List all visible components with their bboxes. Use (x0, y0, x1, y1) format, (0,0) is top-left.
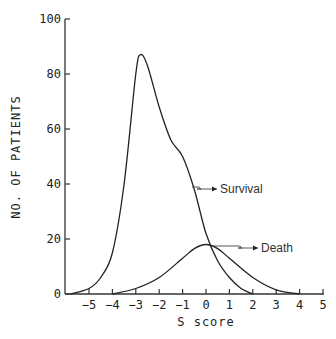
y-tick-label: 80 (47, 67, 61, 81)
arrow-icon (253, 246, 258, 251)
survival-annotation-label: Survival (220, 182, 263, 196)
x-tick-label: 2 (249, 298, 256, 312)
x-tick-label: 5 (319, 298, 326, 312)
x-axis-title: S score (177, 315, 235, 329)
y-tick-label: 60 (47, 122, 61, 136)
x-tick-label: 4 (296, 298, 303, 312)
x-tick-label: 3 (273, 298, 280, 312)
y-tick-label: 20 (47, 232, 61, 246)
chart: 020406080100 −5−4−3−2−1012345 S score NO… (0, 0, 336, 339)
x-tick-label: −1 (175, 298, 189, 312)
x-tick-label: −5 (82, 298, 96, 312)
x-tick-label: 0 (202, 298, 209, 312)
series-survival-curve (70, 54, 253, 294)
x-tick-label: −2 (152, 298, 166, 312)
y-axis-title: NO. OF PATIENTS (9, 95, 23, 218)
x-tick-label: 1 (226, 298, 233, 312)
x-tick-label: −4 (105, 298, 119, 312)
y-tick-label: 40 (47, 177, 61, 191)
x-tick-label: −3 (129, 298, 143, 312)
curves (70, 54, 299, 294)
death-annotation-leader (211, 246, 258, 248)
arrow-icon (212, 187, 217, 192)
y-tick-label: 0 (54, 287, 61, 301)
death-annotation-label: Death (261, 241, 293, 255)
y-tick-label: 100 (39, 12, 61, 26)
